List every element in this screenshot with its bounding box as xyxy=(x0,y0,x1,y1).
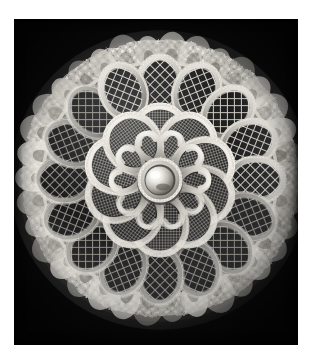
screenshot-root xyxy=(0,0,316,360)
photographic-mount xyxy=(0,0,316,360)
lace-doily-image xyxy=(14,19,298,345)
photo-field xyxy=(14,19,298,345)
boss-specular-highlight xyxy=(150,171,160,179)
doily-artwork xyxy=(14,19,298,345)
center-boss xyxy=(137,159,183,205)
